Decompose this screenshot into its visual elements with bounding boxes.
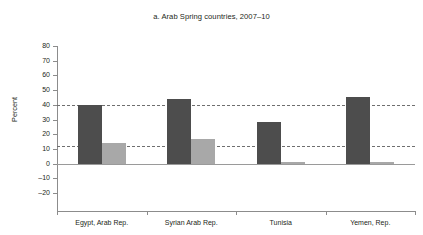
- bar-series-2-2: [281, 162, 305, 163]
- bar-series-2-0: [102, 143, 126, 164]
- y-tick-label-7: 10: [42, 144, 50, 153]
- bar-series-1-1: [167, 99, 191, 164]
- y-tick-1: 70: [53, 61, 57, 62]
- x-category-label-1: Syrian Arab Rep.: [147, 218, 237, 227]
- bar-series-1-3: [346, 97, 370, 163]
- x-tick-0: [147, 211, 148, 215]
- plot-area: 80706050403020100–10–20 Egypt, Arab Rep.…: [57, 30, 415, 202]
- y-tick-3: 50: [53, 90, 57, 91]
- y-tick-2: 60: [53, 75, 57, 76]
- x-category-label-2: Tunisia: [236, 218, 326, 227]
- x-tick-origin: [57, 211, 58, 215]
- y-tick-label-1: 70: [42, 56, 50, 65]
- y-tick-label-9: –10: [38, 173, 50, 182]
- y-axis-label: Percent: [10, 80, 19, 140]
- bar-group: [167, 30, 215, 202]
- y-tick-label-2: 60: [42, 70, 50, 79]
- y-tick-10: –20: [53, 193, 57, 194]
- x-category-label-0: Egypt, Arab Rep.: [57, 218, 147, 227]
- x-category-label-3: Yemen, Rep.: [326, 218, 416, 227]
- x-tick-1: [236, 211, 237, 215]
- y-tick-label-0: 80: [42, 41, 50, 50]
- chart-figure: a. Arab Spring countries, 2007–10 Percen…: [0, 0, 423, 235]
- bar-series-1-2: [257, 122, 281, 163]
- y-tick-label-3: 50: [42, 85, 50, 94]
- y-axis-line: [57, 46, 58, 212]
- y-tick-label-10: –20: [38, 188, 50, 197]
- bar-group: [257, 30, 305, 202]
- y-tick-label-5: 30: [42, 115, 50, 124]
- y-tick-label-4: 40: [42, 100, 50, 109]
- y-tick-5: 30: [53, 120, 57, 121]
- bar-series-2-1: [191, 139, 215, 164]
- y-tick-6: 20: [53, 134, 57, 135]
- y-tick-9: –10: [53, 178, 57, 179]
- y-tick-7: 10: [53, 149, 57, 150]
- x-tick-2: [326, 211, 327, 215]
- chart-title: a. Arab Spring countries, 2007–10: [0, 12, 423, 21]
- bar-group: [346, 30, 394, 202]
- y-tick-label-6: 20: [42, 129, 50, 138]
- y-tick-0: 80: [53, 46, 57, 47]
- bar-series-2-3: [370, 162, 394, 163]
- y-tick-label-8: 0: [46, 159, 50, 168]
- bar-series-1-0: [78, 105, 102, 164]
- bar-group: [78, 30, 126, 202]
- x-tick-3: [415, 211, 416, 215]
